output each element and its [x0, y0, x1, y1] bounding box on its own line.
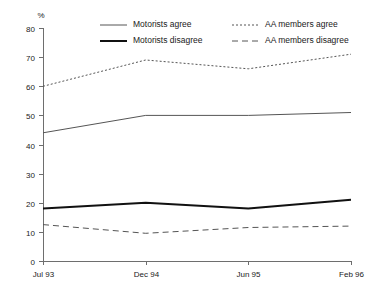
series-line: [43, 54, 351, 86]
y-tick-label: 30: [26, 171, 35, 180]
chart-axes: [43, 28, 351, 261]
y-tick-label: 70: [26, 54, 35, 63]
legend-label: AA members agree: [265, 19, 338, 29]
series-line: [43, 200, 351, 209]
series-line: [43, 225, 351, 234]
legend-label: AA members disagree: [265, 35, 349, 45]
line-chart: 01020304050607080 Jul 93Dec 94Jun 95Feb …: [0, 0, 371, 295]
y-tick-label: 40: [26, 142, 35, 151]
y-axis-unit-label: %: [37, 11, 44, 20]
y-tick-label: 0: [31, 258, 36, 267]
y-tick-label: 80: [26, 25, 35, 34]
x-tick-label: Feb 96: [339, 270, 364, 279]
x-tick-label: Dec 94: [134, 270, 160, 279]
legend-label: Motorists agree: [133, 19, 192, 29]
chart-legend: Motorists agreeAA members agreeMotorists…: [100, 19, 349, 45]
y-tick-label: 60: [26, 83, 35, 92]
x-tick-label: Jun 95: [236, 270, 261, 279]
y-tick-label: 50: [26, 112, 35, 121]
y-axis-ticks: 01020304050607080: [26, 25, 43, 267]
series-line: [43, 113, 351, 133]
chart-canvas: 01020304050607080 Jul 93Dec 94Jun 95Feb …: [0, 0, 371, 295]
legend-label: Motorists disagree: [133, 35, 203, 45]
x-tick-label: Jul 93: [33, 270, 55, 279]
y-tick-label: 10: [26, 229, 35, 238]
chart-series: [43, 54, 351, 233]
y-tick-label: 20: [26, 200, 35, 209]
x-axis-ticks: Jul 93Dec 94Jun 95Feb 96: [33, 261, 365, 279]
